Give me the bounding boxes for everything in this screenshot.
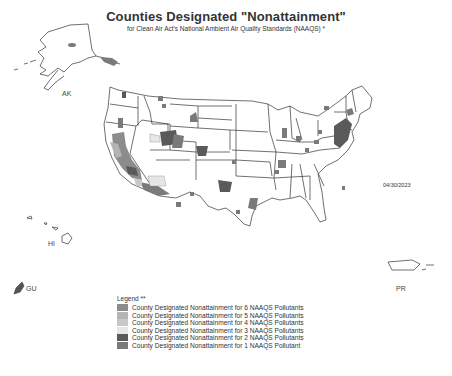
alaska-peninsula (44, 70, 64, 90)
label-alaska: AK (62, 90, 71, 97)
label-guam: GU (26, 285, 37, 292)
puerto-rico-outline (388, 260, 420, 270)
legend-swatch (117, 319, 128, 326)
legend-item: County Designated Nonattainment for 5 NA… (117, 312, 304, 320)
legend-item: County Designated Nonattainment for 6 NA… (117, 304, 304, 312)
legend-item: County Designated Nonattainment for 4 NA… (117, 319, 304, 327)
legend-swatch (117, 304, 128, 311)
alaska-outline (38, 24, 96, 76)
virgin-islands (422, 265, 434, 270)
label-hawaii: HI (48, 240, 55, 247)
legend: Legend ** County Designated Nonattainmen… (117, 295, 304, 349)
guam-shape (14, 282, 24, 294)
legend-title: Legend ** (117, 295, 304, 302)
legend-label: County Designated Nonattainment for 1 NA… (132, 342, 300, 349)
legend-swatch (117, 334, 128, 341)
legend-label: County Designated Nonattainment for 3 NA… (132, 327, 304, 334)
legend-label: County Designated Nonattainment for 4 NA… (132, 319, 304, 326)
nonattainment-areas (110, 92, 354, 214)
legend-item: County Designated Nonattainment for 1 NA… (117, 342, 304, 350)
legend-label: County Designated Nonattainment for 2 NA… (132, 334, 304, 341)
legend-label: County Designated Nonattainment for 6 NA… (132, 304, 304, 311)
legend-swatch (117, 327, 128, 334)
aleutian-islands (14, 60, 36, 70)
legend-label: County Designated Nonattainment for 5 NA… (132, 312, 304, 319)
conus-outline (104, 86, 372, 226)
legend-swatch (117, 312, 128, 319)
label-puerto-rico: PR (396, 285, 406, 292)
legend-swatch (117, 342, 128, 349)
legend-item: County Designated Nonattainment for 3 NA… (117, 327, 304, 335)
legend-item: County Designated Nonattainment for 2 NA… (117, 334, 304, 342)
map-date: 04/30/2023 (383, 182, 411, 188)
